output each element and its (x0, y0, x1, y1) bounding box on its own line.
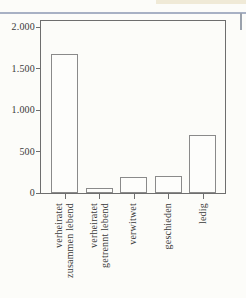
y-axis-tick-label: 1.500 (4, 63, 35, 75)
y-axis-tick-label: 0 (4, 187, 35, 199)
x-category-label: verwitwet (128, 203, 139, 288)
y-axis-tick (36, 68, 40, 69)
x-axis-tick (203, 194, 204, 199)
x-category-label: geschieden (163, 203, 174, 288)
x-axis-tick (99, 194, 100, 199)
y-axis-tick-label: 500 (4, 146, 35, 158)
x-axis-tick (168, 194, 169, 199)
bar-chart-familienstand: 05001.0001.5002.000verheiratetzusammen l… (0, 0, 246, 298)
x-axis-tick (65, 194, 66, 199)
y-axis-tick (36, 193, 40, 194)
x-axis-tick (134, 194, 135, 199)
y-axis-tick (36, 27, 40, 28)
bar (86, 188, 113, 193)
x-category-label: ledig (198, 203, 209, 288)
x-category-label: verheiratetgetrennt lebend (89, 203, 110, 288)
y-axis-tick-label: 2.000 (4, 21, 35, 33)
bar (189, 135, 216, 193)
bar (155, 176, 182, 193)
bar (120, 177, 147, 193)
y-axis-tick-label: 1.000 (4, 104, 35, 116)
x-category-label: verheiratetzusammen lebend (54, 203, 75, 288)
bar (51, 54, 78, 193)
y-axis-tick (36, 110, 40, 111)
screenshot-root: { "page": { "background": "#fcfcf9", "de… (0, 0, 246, 298)
y-axis-tick (36, 151, 40, 152)
scanned-page: 05001.0001.5002.000verheiratetzusammen l… (0, 0, 246, 298)
